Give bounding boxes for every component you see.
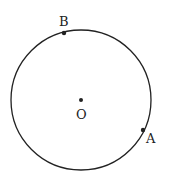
diagram-canvas: O B A <box>0 0 170 185</box>
point-label-b: B <box>59 14 69 29</box>
point-label-a: A <box>145 131 156 146</box>
point-b <box>62 31 66 35</box>
circle-diagram: O B A <box>0 0 170 185</box>
center-label-o: O <box>76 107 87 122</box>
point-a <box>141 128 145 132</box>
center-point-o <box>79 98 83 102</box>
